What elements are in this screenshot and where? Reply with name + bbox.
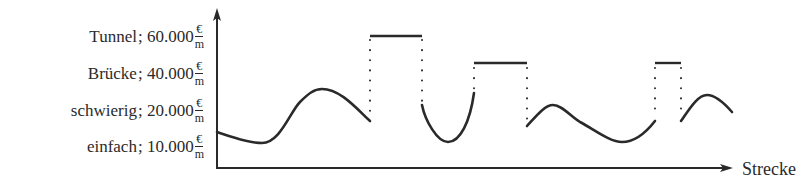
euro-symbol: € — [195, 97, 203, 111]
separator: ; — [138, 28, 147, 45]
unit-fraction: € m — [195, 97, 204, 124]
meter-symbol: m — [195, 111, 204, 124]
route-profile — [217, 36, 732, 143]
level-amount: 10.000 — [147, 138, 194, 155]
level-amount: 40.000 — [147, 65, 194, 82]
level-name: Brücke — [88, 65, 137, 82]
euro-symbol: € — [195, 60, 203, 74]
terrain-curve — [527, 105, 655, 142]
meter-symbol: m — [195, 74, 204, 87]
axes — [213, 8, 733, 172]
level-amount: 20.000 — [147, 102, 194, 119]
level-name: schwierig — [71, 102, 137, 119]
level-label-tunnel: Tunnel; 60.000 € m — [89, 23, 204, 50]
x-axis-label: Strecke — [742, 160, 796, 178]
euro-symbol: € — [195, 133, 203, 147]
separator: ; — [138, 102, 147, 119]
level-amount: 60.000 — [147, 28, 194, 45]
meter-symbol: m — [195, 147, 204, 160]
unit-fraction: € m — [195, 133, 204, 160]
separator: ; — [138, 138, 147, 155]
level-name: Tunnel — [89, 28, 137, 45]
unit-fraction: € m — [195, 23, 204, 50]
separator: ; — [138, 65, 147, 82]
euro-symbol: € — [195, 23, 203, 37]
unit-fraction: € m — [195, 60, 204, 87]
terrain-curve — [681, 95, 732, 121]
meter-symbol: m — [195, 37, 204, 50]
level-label-einfach: einfach; 10.000 € m — [87, 133, 204, 160]
level-label-bruecke: Brücke; 40.000 € m — [88, 60, 204, 87]
level-label-schwierig: schwierig; 20.000 € m — [71, 97, 204, 124]
terrain-curve — [422, 93, 474, 142]
terrain-curve — [217, 89, 370, 143]
level-name: einfach — [87, 138, 137, 155]
